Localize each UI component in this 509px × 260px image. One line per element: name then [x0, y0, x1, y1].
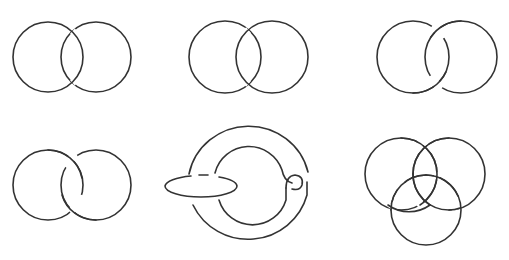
diagram-hopf-link-a: [377, 21, 497, 93]
diagram-hopf-link-b: [13, 150, 131, 220]
diagram-unlink-left-over: [13, 22, 131, 92]
diagram-whitehead-like-link: [165, 126, 308, 239]
link-diagrams-figure: [0, 0, 509, 260]
diagram-unlink-right-over: [189, 21, 308, 93]
diagram-borromean-rings: [365, 138, 485, 245]
